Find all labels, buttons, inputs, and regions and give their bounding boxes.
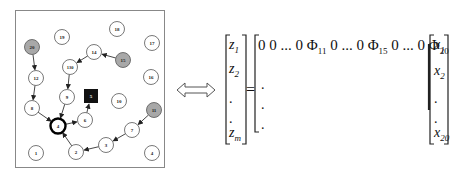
network-node-5: 5	[84, 89, 98, 103]
network-node-1: 1	[29, 146, 44, 161]
phi-11: Φ	[307, 37, 318, 53]
vector-entry: x2	[434, 64, 445, 78]
svg-text:11: 11	[152, 108, 157, 113]
network-node-18: 18	[110, 22, 125, 37]
vector-dot: .	[229, 112, 233, 126]
network-node-15: 15	[116, 53, 131, 68]
svg-text:10: 10	[117, 99, 123, 104]
vector-entry-subscript: 1	[440, 45, 445, 55]
network-edge	[87, 104, 89, 112]
network-node-17: 17	[145, 36, 160, 51]
network-node-16: 16	[144, 70, 159, 85]
svg-text:15: 15	[121, 58, 127, 63]
network-edge	[63, 133, 72, 146]
row-mid-1: 0 ... 0	[326, 37, 367, 53]
network-node-7: 7	[125, 123, 140, 138]
svg-text:19: 19	[60, 35, 66, 40]
network-node-2: 2	[69, 145, 84, 160]
vector-entry: x20	[434, 126, 449, 140]
network-edge	[61, 104, 65, 118]
double-arrow-icon	[176, 82, 216, 98]
network-edge	[38, 112, 51, 121]
network-node-14: 14	[87, 45, 102, 60]
network-node-19: 19	[55, 30, 70, 45]
svg-text:18: 18	[115, 27, 121, 32]
network-node-9: 9	[60, 90, 75, 105]
network-edge	[138, 115, 148, 124]
network-edge	[33, 54, 35, 69]
network-node-6: 6	[78, 113, 93, 128]
vector-entry: zm	[229, 126, 241, 140]
network-edge	[68, 74, 69, 88]
matrix-dot: .	[261, 78, 265, 92]
network-edge	[84, 147, 98, 150]
matrix-dot: .	[261, 118, 265, 132]
vector-entry-subscript: 2	[440, 71, 445, 81]
network-node-11: 11	[147, 103, 162, 118]
network-edge	[102, 54, 116, 58]
phi-15-subscript: 15	[379, 46, 388, 56]
svg-text:14: 14	[92, 50, 98, 55]
svg-text:12: 12	[34, 76, 40, 81]
svg-text:16: 16	[149, 75, 155, 80]
vector-entry-subscript: 20	[440, 133, 449, 143]
svg-text:20: 20	[30, 45, 36, 50]
network-edge	[33, 85, 35, 99]
network-node-12: 12	[29, 71, 44, 86]
matrix-dot: .	[261, 98, 265, 112]
network-node-8: 8	[25, 101, 40, 116]
row-mid-2: 0 ... 0	[388, 37, 429, 53]
vector-entry: z2	[229, 62, 239, 76]
vector-entry-subscript: 2	[234, 69, 239, 79]
svg-text:130: 130	[67, 65, 75, 70]
vector-dot: .	[229, 92, 233, 106]
row-prefix: 0 0 ... 0	[258, 37, 307, 53]
network-edge	[113, 134, 125, 141]
network-edge	[65, 122, 76, 125]
svg-text:17: 17	[150, 41, 156, 46]
network-node-20: 20	[25, 40, 40, 55]
vector-dot: .	[434, 92, 438, 106]
matrix-first-row: 0 0 ... 0 Φ11 0 ... 0 Φ15 0 ... 0 Φ20	[258, 38, 449, 53]
network-node-3: 3	[99, 138, 114, 153]
network-node-4: 4	[51, 119, 66, 134]
vector-entry: x1	[434, 38, 445, 52]
vector-dot: .	[434, 112, 438, 126]
network-node-10: 10	[112, 94, 127, 109]
network-node-130: 130	[63, 60, 78, 75]
phi-11-subscript: 11	[318, 46, 327, 56]
vector-entry: z1	[229, 38, 239, 52]
network-edge	[77, 56, 87, 63]
vector-entry-subscript: m	[234, 133, 241, 143]
network-node-4: 4	[145, 146, 160, 161]
sensor-network-graph: 201918171415130121695108116473124	[0, 0, 180, 173]
vector-entry-subscript: 1	[234, 45, 239, 55]
phi-15: Φ	[368, 37, 379, 53]
